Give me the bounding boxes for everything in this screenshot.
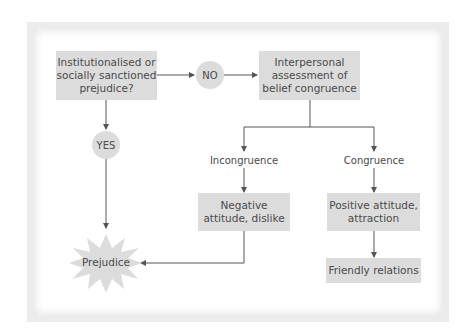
question-node: Institutionalised or socially sanctioned… [56,51,157,100]
friendly-text: Friendly relations [328,264,418,277]
assessment-text: Interpersonal assessment of belief congr… [259,56,360,95]
question-text: Institutionalised or socially sanctioned… [56,56,157,95]
friendly-relations-node: Friendly relations [326,258,421,283]
prejudice-text: Prejudice [66,256,146,268]
assessment-node: Interpersonal assessment of belief congr… [259,51,360,100]
positive-attitude-node: Positive attitude, attraction [327,193,420,231]
negative-attitude-node: Negative attitude, dislike [198,193,290,231]
yes-node: YES [92,131,120,159]
incongruence-label: Incongruence [199,155,289,166]
no-node: NO [196,61,224,89]
negative-text: Negative attitude, dislike [198,199,290,225]
yes-text: YES [97,140,116,151]
positive-text: Positive attitude, attraction [327,199,420,225]
congruence-label: Congruence [329,155,419,166]
no-text: NO [202,70,217,81]
